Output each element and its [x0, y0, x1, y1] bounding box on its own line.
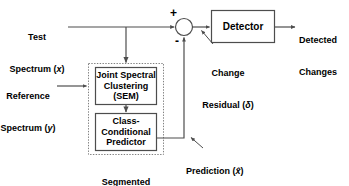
- detected-changes-line1: Detected: [299, 35, 349, 46]
- change-residual-label: Change Residual (δ): [186, 47, 270, 132]
- change-residual-line2: Residual (δ): [186, 100, 270, 111]
- segmented-predictor-label: Segmented Predictor: [88, 156, 164, 186]
- detected-changes-line2: Changes: [299, 67, 349, 78]
- junction-minus-sign: -: [175, 35, 179, 47]
- diagram-canvas: Test Spectrum (x) Reference Spectrum (y)…: [0, 0, 349, 186]
- test-spectrum-line1: Test: [6, 32, 68, 43]
- summing-junction-shape: [176, 19, 193, 36]
- prediction-text: Prediction (x̂): [186, 166, 276, 177]
- detected-changes-label: Detected Changes: [299, 14, 349, 99]
- detector-block[interactable]: Detector: [211, 10, 275, 43]
- reference-spectrum-line1: Reference: [0, 91, 59, 102]
- change-residual-line1: Change: [186, 68, 270, 79]
- reference-spectrum-line2: Spectrum (y): [0, 123, 59, 134]
- segmented-predictor-line1: Segmented: [88, 177, 164, 186]
- prediction-feedback-line: [157, 38, 185, 139]
- prediction-label: Prediction (x̂): [186, 145, 276, 186]
- joint-spectral-clustering-block[interactable]: Joint Spectral Clustering (SEM): [95, 67, 157, 105]
- class-conditional-predictor-block[interactable]: Class- Conditional Predictor: [95, 113, 157, 151]
- reference-spectrum-label: Reference Spectrum (y): [0, 70, 59, 155]
- junction-plus-sign: +: [170, 7, 177, 19]
